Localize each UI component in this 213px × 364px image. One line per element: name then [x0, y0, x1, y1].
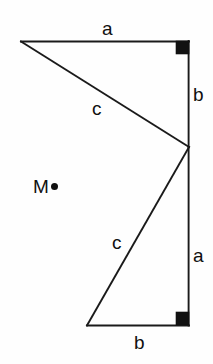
- label-bottom-side-b: b: [134, 333, 145, 352]
- centre-point-m: M: [33, 177, 58, 196]
- right-angle-marker-top-icon: [176, 41, 189, 54]
- label-lower-vertical-a: a: [193, 246, 204, 265]
- segment-lower-hypotenuse-c: [87, 147, 189, 326]
- segment-upper-hypotenuse-c: [21, 42, 189, 148]
- label-top-side-a: a: [102, 19, 113, 38]
- figure-canvas: [0, 0, 213, 364]
- label-lower-hypotenuse-c: c: [112, 233, 122, 252]
- label-upper-vertical-b: b: [193, 85, 204, 104]
- centre-point-label: M: [33, 177, 49, 196]
- right-angle-marker-bottom-icon: [176, 312, 189, 325]
- centre-point-dot-icon: [51, 183, 58, 190]
- geometry-figure: a c b a c b M: [0, 0, 213, 364]
- label-upper-hypotenuse-c: c: [92, 99, 102, 118]
